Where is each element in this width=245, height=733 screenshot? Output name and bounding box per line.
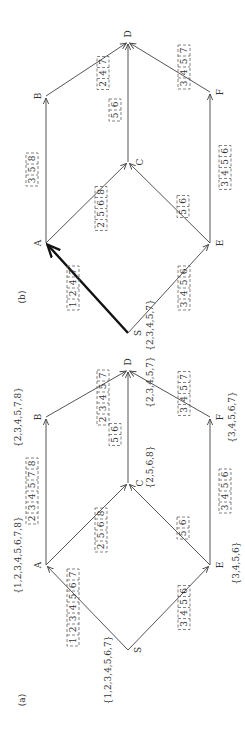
- node-D: D: [123, 30, 133, 37]
- node-set-S: {2,3,4,5,7}: [145, 299, 155, 351]
- edge-E-C: [129, 484, 210, 565]
- edge-label-E-F: 3456: [219, 146, 231, 190]
- network-diagram: 124734563582568563456247563457SAEBCFD{2,…: [0, 0, 245, 733]
- node-E: E: [215, 240, 225, 247]
- label-number: 3: [98, 405, 108, 411]
- node-set-D: {2,3,4,5,7}: [145, 356, 155, 408]
- label-number: 5: [27, 166, 37, 172]
- node-set-C: {2,5,6,8}: [145, 446, 155, 489]
- node-C: C: [135, 158, 145, 165]
- label-number: 4: [98, 70, 108, 76]
- label-number: 5: [98, 383, 108, 389]
- edge-label-A-B: 234578: [26, 458, 38, 524]
- label-number: 3: [220, 181, 230, 187]
- edge-S-E: [128, 566, 209, 650]
- node-F: F: [215, 89, 225, 95]
- label-number: 2: [27, 516, 37, 522]
- edge-A-C: [46, 484, 127, 565]
- label-number: 8: [27, 155, 37, 161]
- label-number: 2: [96, 544, 106, 550]
- edge-S-E: [128, 244, 209, 333]
- edge-label-C-D: 56: [109, 99, 121, 121]
- panel-caption-a: (a): [17, 694, 27, 706]
- node-set-F: {3,4,5,6,7}: [227, 391, 237, 443]
- label-number: 3: [68, 615, 78, 621]
- label-number: 5: [179, 279, 189, 285]
- label-number: 8: [96, 510, 106, 516]
- label-number: 6: [96, 200, 106, 206]
- label-number: 6: [96, 521, 106, 527]
- label-number: 3: [179, 301, 189, 307]
- label-number: 5: [110, 112, 120, 118]
- label-number: 7: [27, 471, 37, 477]
- label-number: 5: [96, 532, 106, 538]
- node-B: B: [33, 92, 43, 99]
- edge-S-A: [47, 244, 128, 333]
- label-number: 3: [179, 621, 189, 627]
- label-number: 4: [98, 394, 108, 400]
- label-number: 1: [68, 638, 78, 644]
- edge-B-D: [46, 43, 126, 96]
- edge-A-C: [46, 163, 127, 243]
- label-number: 5: [110, 437, 120, 443]
- label-number: 3: [27, 177, 37, 183]
- label-number: 4: [179, 290, 189, 296]
- edge-label-A-B: 358: [26, 153, 38, 186]
- edge-label-F-D: 3457: [178, 372, 190, 416]
- label-number: 4: [27, 493, 37, 499]
- label-number: 6: [68, 582, 78, 588]
- label-number: 7: [98, 59, 108, 65]
- label-number: 5: [178, 209, 188, 215]
- node-S: S: [133, 647, 143, 653]
- label-number: 6: [178, 519, 188, 525]
- label-number: 4: [179, 69, 189, 75]
- label-number: 7: [68, 571, 78, 577]
- node-set-B: {2,3,4,5,7,8}: [13, 387, 23, 447]
- label-number: 5: [96, 211, 106, 217]
- label-number: 6: [179, 588, 189, 594]
- label-number: 5: [179, 385, 189, 391]
- label-number: 8: [27, 460, 37, 466]
- label-number: 6: [110, 426, 120, 432]
- label-number: 3: [220, 504, 230, 510]
- label-number: 3: [27, 504, 37, 510]
- node-A: A: [33, 239, 43, 247]
- label-number: 1: [68, 302, 78, 308]
- label-number: 5: [220, 159, 230, 165]
- label-number: 7: [179, 47, 189, 53]
- label-number: 4: [220, 493, 230, 499]
- node-F: F: [215, 414, 225, 420]
- edge-label-E-C: 56: [177, 517, 189, 539]
- node-D: D: [123, 358, 133, 365]
- label-number: 3: [179, 80, 189, 86]
- node-A: A: [33, 561, 43, 569]
- node-S: S: [133, 330, 143, 336]
- label-number: 4: [68, 279, 78, 285]
- labels-layer: 124734563582568563456247563457SAEBCFD{2,…: [13, 30, 241, 706]
- label-number: 6: [220, 471, 230, 477]
- label-number: 6: [179, 268, 189, 274]
- edge-S-A: [47, 566, 128, 650]
- edge-label-F-D: 3457: [178, 45, 190, 89]
- label-number: 6: [178, 198, 188, 204]
- label-number: 7: [179, 374, 189, 380]
- edge-label-S-A: 1234567: [67, 569, 79, 646]
- edge-label-E-C: 56: [177, 196, 189, 218]
- label-number: 2: [96, 222, 106, 228]
- edge-label-S-E: 3456: [178, 586, 190, 630]
- node-E: E: [215, 562, 225, 569]
- edge-label-B-D: 247: [97, 57, 109, 90]
- label-number: 4: [179, 396, 189, 402]
- label-number: 5: [179, 599, 189, 605]
- panel-caption-b: (b): [17, 291, 27, 304]
- node-C: C: [135, 479, 145, 486]
- edge-label-C-D: 56: [109, 424, 121, 446]
- label-number: 7: [98, 372, 108, 378]
- edge-F-D: [130, 371, 210, 417]
- edge-E-C: [129, 163, 210, 243]
- label-number: 2: [98, 81, 108, 87]
- edges-layer: [46, 43, 210, 650]
- label-number: 5: [68, 593, 78, 599]
- edge-label-S-E: 3456: [178, 266, 190, 310]
- edge-label-S-A: 1247: [67, 266, 79, 310]
